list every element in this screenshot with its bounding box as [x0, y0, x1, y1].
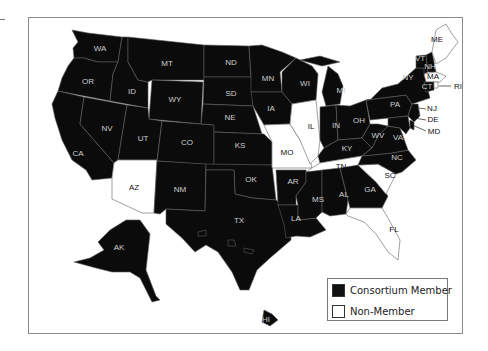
- label-oh: OH: [353, 116, 365, 125]
- legend-item-member: Consortium Member: [332, 282, 452, 298]
- label-mn: MN: [262, 74, 275, 83]
- label-fl: FL: [389, 225, 399, 234]
- label-hi: HI: [262, 315, 270, 324]
- label-mt: MT: [161, 59, 173, 68]
- label-tx: TX: [234, 216, 245, 225]
- label-mi: MI: [337, 86, 346, 95]
- label-sc: SC: [384, 171, 395, 180]
- label-il: IL: [308, 122, 315, 131]
- label-wa: WA: [94, 44, 107, 53]
- label-wy: WY: [169, 95, 183, 104]
- label-ky: KY: [342, 144, 353, 153]
- label-ak: AK: [114, 243, 125, 252]
- label-nm: NM: [174, 185, 187, 194]
- label-nv: NV: [101, 124, 113, 133]
- legend-label-member: Consortium Member: [350, 285, 452, 296]
- state-fl[interactable]: [346, 208, 400, 260]
- label-wi: WI: [300, 79, 310, 88]
- label-id: ID: [128, 87, 136, 96]
- label-nj: NJ: [427, 104, 437, 113]
- state-me[interactable]: [432, 24, 458, 64]
- label-la: LA: [291, 214, 301, 223]
- label-ar: AR: [287, 177, 298, 186]
- label-ny: NY: [402, 73, 414, 82]
- member-swatch-icon: [332, 284, 345, 297]
- state-ak[interactable]: [74, 220, 160, 302]
- label-or: OR: [82, 77, 94, 86]
- label-sd: SD: [225, 89, 236, 98]
- label-mo: MO: [281, 148, 294, 157]
- label-pa: PA: [390, 100, 401, 109]
- label-ms: MS: [312, 195, 324, 204]
- label-de: DE: [427, 115, 438, 124]
- label-ma: MA: [427, 72, 440, 81]
- label-me: ME: [431, 35, 443, 44]
- label-nh: NH: [424, 62, 436, 71]
- non-member-swatch-icon: [332, 305, 345, 318]
- label-tn: TN: [336, 162, 347, 171]
- label-ut: UT: [138, 134, 149, 143]
- label-al: AL: [339, 190, 349, 199]
- label-nd: ND: [225, 58, 237, 67]
- label-ia: IA: [267, 104, 275, 113]
- label-az: AZ: [129, 183, 139, 192]
- label-in: IN: [332, 121, 340, 130]
- label-va: VA: [393, 133, 404, 142]
- label-ks: KS: [235, 141, 246, 150]
- label-wv: WV: [372, 131, 386, 140]
- label-nc: NC: [391, 153, 403, 162]
- legend-item-non-member: Non-Member: [332, 303, 415, 319]
- label-co: CO: [181, 138, 193, 147]
- label-ok: OK: [245, 175, 257, 184]
- label-ct: CT: [422, 82, 433, 91]
- label-ga: GA: [364, 185, 376, 194]
- label-ca: CA: [72, 149, 84, 158]
- state-ri[interactable]: [434, 82, 438, 88]
- label-ne: NE: [224, 113, 235, 122]
- nj-leader-line: [419, 108, 426, 109]
- label-md: MD: [428, 127, 441, 136]
- label-ri: RI: [454, 82, 462, 91]
- map-legend: Consortium Member Non-Member: [327, 278, 448, 321]
- legend-label-non-member: Non-Member: [350, 306, 415, 317]
